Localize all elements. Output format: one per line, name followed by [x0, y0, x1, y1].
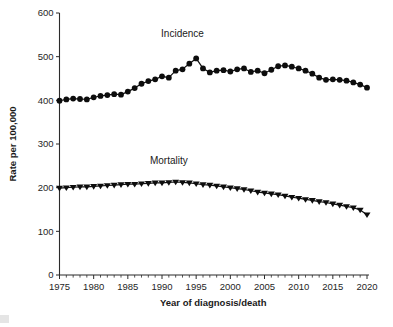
marker-incidence-2017 — [344, 78, 350, 84]
marker-incidence-1981 — [98, 93, 104, 99]
marker-incidence-2003 — [248, 69, 254, 75]
marker-incidence-1988 — [145, 78, 151, 84]
marker-mortality-2019 — [357, 208, 364, 214]
x-tick-label-2015: 2015 — [322, 281, 343, 292]
annotation-incidence: Incidence — [161, 28, 204, 39]
marker-incidence-2009 — [289, 64, 295, 70]
series-annotations: IncidenceMortality — [150, 28, 204, 166]
marker-incidence-2002 — [241, 66, 247, 72]
x-tick-label-1985: 1985 — [117, 281, 138, 292]
marker-incidence-2011 — [303, 68, 309, 74]
data-series-group — [56, 56, 371, 219]
marker-incidence-1985 — [125, 89, 131, 95]
marker-incidence-1984 — [118, 92, 124, 98]
marker-incidence-1999 — [221, 67, 227, 73]
marker-incidence-1980 — [91, 94, 97, 100]
x-tick-label-1990: 1990 — [151, 281, 172, 292]
marker-incidence-1983 — [111, 91, 117, 97]
marker-incidence-1990 — [159, 73, 165, 79]
axis-titles: Year of diagnosis/deathRate per 100,000 — [7, 107, 267, 309]
x-tick-label-2005: 2005 — [254, 281, 275, 292]
marker-incidence-1995 — [193, 56, 199, 62]
y-tick-label-600: 600 — [38, 7, 54, 18]
marker-incidence-2006 — [268, 67, 274, 73]
marker-incidence-2012 — [309, 71, 315, 77]
marker-incidence-1992 — [173, 68, 179, 74]
marker-incidence-2019 — [357, 82, 363, 88]
scan-artifacts — [0, 315, 9, 323]
marker-incidence-1989 — [152, 76, 158, 82]
x-tick-label-2020: 2020 — [356, 281, 377, 292]
y-tick-label-0: 0 — [48, 269, 53, 280]
marker-incidence-1986 — [132, 85, 138, 91]
marker-incidence-2001 — [234, 66, 240, 72]
x-axis-ticks: 1975198019851990199520002005201020152020 — [49, 275, 378, 292]
y-axis-title: Rate per 100,000 — [7, 107, 18, 182]
marker-incidence-1998 — [214, 68, 220, 74]
x-tick-label-1975: 1975 — [49, 281, 70, 292]
chart-figure: 0100200300400500600 19751980198519901995… — [0, 0, 393, 327]
marker-incidence-2010 — [296, 66, 302, 72]
marker-incidence-2008 — [282, 63, 288, 69]
marker-incidence-1996 — [200, 66, 206, 72]
x-axis-title: Year of diagnosis/death — [160, 297, 267, 308]
marker-incidence-2007 — [275, 63, 281, 69]
marker-incidence-2018 — [350, 80, 356, 86]
x-tick-label-1995: 1995 — [186, 281, 207, 292]
marker-incidence-1975 — [57, 98, 63, 104]
annotation-mortality: Mortality — [150, 155, 188, 166]
y-tick-label-200: 200 — [38, 182, 54, 193]
marker-incidence-2015 — [330, 76, 336, 82]
y-tick-label-500: 500 — [38, 51, 54, 62]
marker-incidence-1991 — [166, 75, 172, 81]
incidence-mortality-line-chart: 0100200300400500600 19751980198519901995… — [0, 0, 393, 327]
series-line-mortality — [60, 182, 368, 215]
x-tick-label-2000: 2000 — [220, 281, 241, 292]
x-tick-label-2010: 2010 — [288, 281, 309, 292]
y-tick-label-400: 400 — [38, 95, 54, 106]
marker-incidence-1993 — [180, 66, 186, 72]
y-tick-label-300: 300 — [38, 138, 54, 149]
marker-incidence-1976 — [63, 97, 69, 103]
marker-incidence-2014 — [323, 77, 329, 83]
scan-edge-mark — [0, 315, 9, 323]
y-tick-label-100: 100 — [38, 226, 54, 237]
marker-incidence-1978 — [77, 96, 83, 102]
axes-group — [60, 13, 370, 275]
marker-incidence-2005 — [262, 70, 268, 76]
y-axis-ticks: 0100200300400500600 — [38, 7, 60, 280]
marker-mortality-1975 — [56, 186, 63, 192]
marker-incidence-2020 — [364, 85, 370, 91]
marker-incidence-1977 — [70, 96, 76, 102]
marker-mortality-2020 — [364, 212, 371, 218]
marker-incidence-1987 — [139, 81, 145, 87]
x-tick-label-1980: 1980 — [83, 281, 104, 292]
marker-incidence-1979 — [84, 97, 90, 103]
marker-incidence-2004 — [255, 68, 261, 74]
marker-incidence-2013 — [316, 75, 322, 81]
marker-incidence-1997 — [207, 69, 213, 75]
marker-incidence-1994 — [186, 61, 192, 67]
marker-incidence-2016 — [337, 77, 343, 83]
marker-incidence-1982 — [104, 92, 110, 98]
marker-incidence-2000 — [227, 69, 233, 75]
